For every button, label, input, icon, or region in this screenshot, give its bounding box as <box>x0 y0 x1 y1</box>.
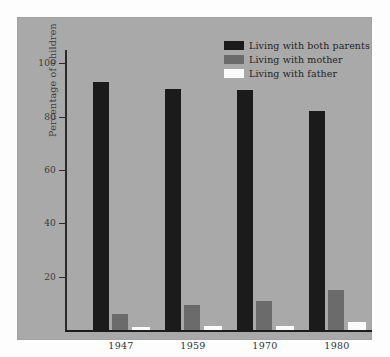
y-tick-label: 60 <box>44 165 56 175</box>
bar-mother-1959 <box>184 305 200 330</box>
legend-swatch-both-parents <box>224 41 244 50</box>
bar-father-1970 <box>276 326 294 330</box>
bar-both-1959 <box>165 89 181 330</box>
y-tick-label: 20 <box>44 272 56 282</box>
figure-canvas: Living with both parents Living with mot… <box>0 0 390 357</box>
y-tick-mark <box>59 223 65 224</box>
y-tick-label: 80 <box>44 112 56 122</box>
bar-mother-1980 <box>328 290 344 330</box>
bar-both-1970 <box>237 90 253 330</box>
plot-area: 20406080100 1947195919701980 <box>65 50 372 332</box>
x-tick-label-1980: 1980 <box>324 340 349 351</box>
x-tick-label-1970: 1970 <box>252 340 277 351</box>
bar-father-1947 <box>132 327 150 330</box>
x-tick-label-1947: 1947 <box>108 340 133 351</box>
chart-panel: Living with both parents Living with mot… <box>17 17 372 340</box>
y-axis-line <box>65 50 67 332</box>
bar-mother-1947 <box>112 314 128 330</box>
y-tick-mark <box>59 117 65 118</box>
bar-father-1980 <box>348 322 366 330</box>
bar-group-1980 <box>309 50 369 330</box>
bar-father-1959 <box>204 326 222 330</box>
bar-both-1947 <box>93 82 109 330</box>
bar-both-1980 <box>309 111 325 330</box>
bar-group-1970 <box>237 50 297 330</box>
bar-group-1947 <box>93 50 153 330</box>
y-tick-mark <box>59 277 65 278</box>
y-tick-mark <box>59 63 65 64</box>
y-tick-label: 40 <box>44 218 56 228</box>
x-tick-label-1959: 1959 <box>180 340 205 351</box>
y-tick-mark <box>59 170 65 171</box>
y-tick-label: 100 <box>38 58 56 68</box>
bar-mother-1970 <box>256 301 272 330</box>
x-axis-line <box>65 330 372 332</box>
bar-group-1959 <box>165 50 225 330</box>
